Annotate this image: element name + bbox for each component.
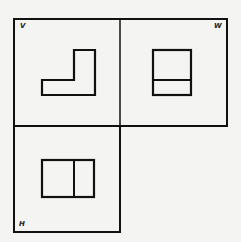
projection-diagram: [0, 0, 241, 242]
side-view-rect: [153, 50, 191, 95]
h-frame: [14, 126, 120, 232]
panel-label-v: V: [20, 23, 25, 30]
panel-label-h: H: [19, 221, 25, 228]
top-view-rect: [42, 160, 94, 197]
front-view-l-shape: [42, 50, 95, 95]
panel-label-w: W: [214, 23, 222, 30]
